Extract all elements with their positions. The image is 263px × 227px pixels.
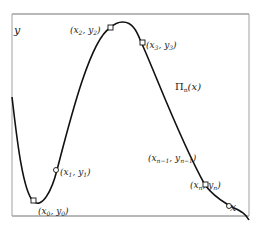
point-label-0: (x0, y0) <box>38 206 69 217</box>
x-axis-label: x <box>230 201 237 214</box>
y-axis-label: y <box>13 24 21 37</box>
diagram-canvas: y x Πn(x) (x0, y0) (x1, y1) (x2, y2) (x3… <box>0 0 263 227</box>
point-label-2: (x2, y2) <box>70 25 101 36</box>
point-marker-0 <box>31 198 36 203</box>
point-marker-2 <box>108 25 113 30</box>
point-marker-3 <box>140 40 145 45</box>
point-label-1: (x1, y1) <box>60 167 91 178</box>
point-label-3: (x3, y3) <box>146 40 177 51</box>
point-label-n: (xn, yn) <box>190 180 221 191</box>
curve-label: Πn(x) <box>175 81 201 93</box>
point-marker-1 <box>54 168 59 173</box>
